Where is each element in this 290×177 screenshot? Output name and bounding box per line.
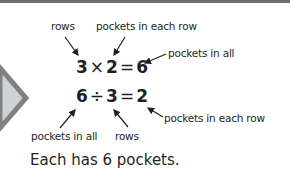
- arrow-pockets-each-row-to-2: [148, 108, 163, 117]
- arrow-pockets-in-all-bottom-to-6: [60, 110, 75, 128]
- arrow-pockets-in-all-to-6: [145, 54, 166, 63]
- arrow-rows-to-3: [65, 37, 78, 55]
- arrow-rows-bottom-to-3: [114, 110, 128, 127]
- arrow-pockets-each-row-to-2: [114, 37, 125, 55]
- caption: Each has 6 pockets.: [30, 153, 180, 168]
